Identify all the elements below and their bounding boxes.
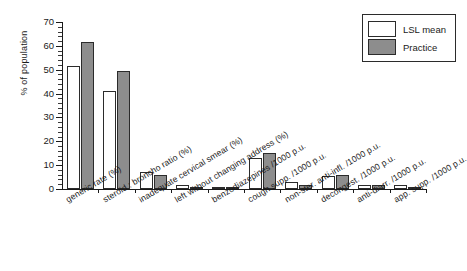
legend: LSL mean Practice [362, 14, 456, 62]
y-tick-label: 10 [14, 160, 54, 170]
x-tick [280, 189, 281, 193]
y-tick-label: 50 [14, 65, 54, 75]
y-tick-label: 70 [14, 17, 54, 27]
y-tick-label: 20 [14, 136, 54, 146]
legend-swatch-practice [368, 39, 396, 55]
x-tick [208, 189, 209, 193]
y-tick-label: 40 [14, 89, 54, 99]
legend-item-practice: Practice [368, 39, 450, 55]
x-tick [426, 189, 427, 193]
x-tick [353, 189, 354, 193]
legend-swatch-lsl-mean [368, 21, 396, 37]
y-tick-label: 60 [14, 41, 54, 51]
x-tick [390, 189, 391, 193]
y-tick-label: 0 [14, 184, 54, 194]
legend-item-lsl-mean: LSL mean [368, 21, 450, 37]
x-tick [98, 189, 99, 193]
x-tick [135, 189, 136, 193]
bar [67, 66, 80, 189]
x-tick [171, 189, 172, 193]
legend-label-practice: Practice [403, 42, 437, 53]
x-tick [317, 189, 318, 193]
legend-label-lsl-mean: LSL mean [403, 24, 446, 35]
x-tick [244, 189, 245, 193]
bar [81, 42, 94, 189]
bar-chart: % of population 010203040506070 generic … [0, 0, 467, 271]
y-tick-label: 30 [14, 112, 54, 122]
